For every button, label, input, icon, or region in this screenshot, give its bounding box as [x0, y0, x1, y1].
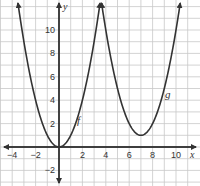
y-tick-label: 4: [50, 95, 55, 105]
x-tick-label: 6: [127, 150, 132, 160]
y-tick-label: 10: [45, 25, 55, 35]
coordinate-plane: −4−2246810108642−2 x y f g: [0, 0, 200, 186]
y-tick-label: 2: [50, 119, 55, 129]
x-tick-label: −4: [7, 150, 17, 160]
x-tick-label: 2: [80, 150, 85, 160]
y-tick-label: −2: [45, 165, 55, 175]
function-label-f: f: [77, 114, 82, 126]
y-tick-label: 8: [50, 48, 55, 58]
x-axis-label: x: [189, 149, 195, 160]
function-label-g: g: [165, 88, 171, 100]
x-tick-label: 4: [103, 150, 108, 160]
y-axis-label: y: [62, 1, 68, 12]
x-tick-label: 10: [171, 150, 181, 160]
x-tick-label: 8: [150, 150, 155, 160]
y-tick-label: 6: [50, 72, 55, 82]
curves: [18, 3, 180, 147]
x-tick-label: −2: [30, 150, 40, 160]
